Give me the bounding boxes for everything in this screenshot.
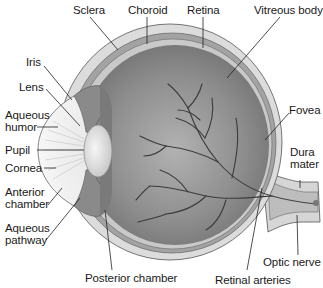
- label-retinal-arteries: Retinal arteries: [215, 274, 291, 287]
- lens-shape: [84, 125, 112, 177]
- label-pupil: Pupil: [5, 144, 30, 157]
- label-dura-mater-line2: mater: [290, 158, 319, 171]
- label-aqueous-humor-line2: humor: [5, 121, 37, 134]
- label-posterior-chamber: Posterior chamber: [85, 272, 177, 285]
- label-sclera: Sclera: [73, 4, 105, 17]
- label-optic-nerve: Optic nerve: [263, 256, 321, 269]
- label-choroid: Choroid: [128, 4, 168, 17]
- label-retina: Retina: [187, 4, 220, 17]
- label-cornea: Cornea: [5, 162, 42, 175]
- eye-anatomy-illustration: [0, 0, 323, 288]
- label-anterior-chamber-line2: chamber: [5, 198, 49, 211]
- label-aqueous-pathway-line2: pathway: [5, 234, 47, 247]
- label-fovea: Fovea: [289, 104, 320, 117]
- label-vitreous-body: Vitreous body: [254, 4, 323, 17]
- label-lens: Lens: [19, 81, 44, 94]
- label-iris: Iris: [26, 56, 41, 69]
